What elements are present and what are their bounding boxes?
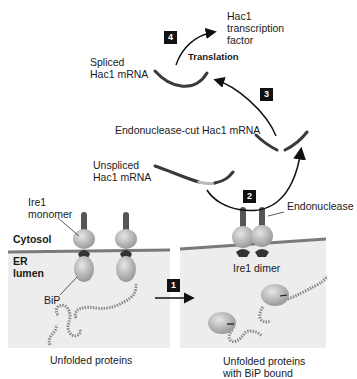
hac1-tf-label: Hac1 transcription factor [227,10,284,46]
ire1-monomer-1 [73,212,95,282]
er-membrane-left [8,250,170,252]
translation-label: Translation [188,51,239,63]
endonuclease-cut-hac1-mrna [256,132,307,150]
step-1-badge: 1 [167,279,180,292]
endonuclease-pointer [268,212,284,216]
step-3-badge: 3 [260,88,273,101]
step-2-badge: 2 [243,190,256,203]
step-4-badge: 4 [164,31,177,44]
ire1-monomer-label: Ire1 monomer [28,196,72,220]
cytosol-label: Cytosol [13,233,52,245]
spliced-hac1-mrna [155,71,207,86]
unfolded-proteins-label: Unfolded proteins [50,354,132,366]
diagram-canvas [0,0,357,379]
unfolded-bip-label: Unfolded proteins with BiP bound [223,355,305,379]
ire1-monomer-pointer [58,218,79,236]
ire1-monomer-2 [115,212,137,282]
endonuclease-label: Endonuclease [287,200,354,212]
cut-mrna-label: Endonuclease-cut Hac1 mRNA [115,124,260,136]
er-lumen-label: ER lumen [13,255,44,279]
unspliced-mrna-label: Unspliced Hac1 mRNA [93,159,151,183]
bip-label: BiP [44,294,60,306]
unspliced-hac1-mrna [155,166,233,184]
ire1-dimer-label: Ire1 dimer [233,262,280,274]
spliced-mrna-label: Spliced Hac1 mRNA [90,56,148,80]
